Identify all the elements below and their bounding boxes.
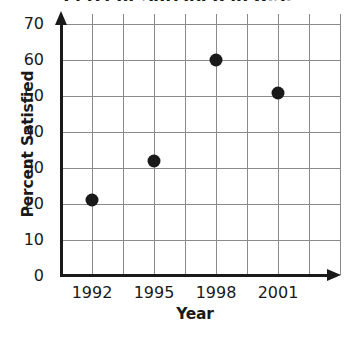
data-point-2001: [272, 87, 285, 100]
data-point-1995: [148, 155, 161, 168]
x-axis-arrowhead-icon: [327, 269, 341, 281]
data-point-1998: [210, 54, 223, 67]
plot-area: [0, 0, 355, 338]
horizontal-gridlines: [61, 24, 340, 240]
vertical-gridlines: [92, 14, 340, 275]
data-point-1992: [86, 194, 99, 207]
y-axis-arrowhead-icon: [55, 11, 67, 25]
axis-lines: [60, 20, 330, 275]
scatter-chart-figure: Percent Satisfied in U.S. Percent Satisf…: [0, 0, 355, 338]
